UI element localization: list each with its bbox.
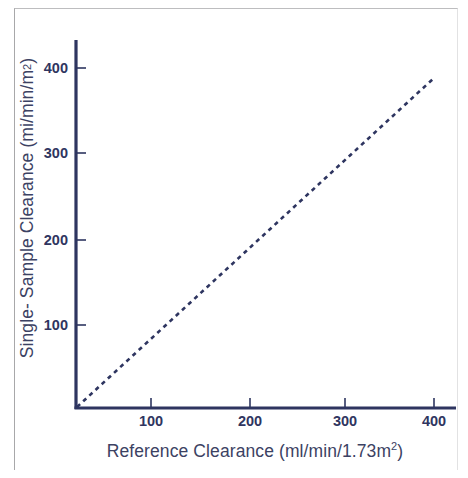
x-tick-label-200: 200 xyxy=(220,413,280,429)
x-tick-label-300: 300 xyxy=(315,413,375,429)
x-axis-title-text: Reference Clearance (ml/min/1.73m xyxy=(107,441,391,461)
x-axis-title-tail: ) xyxy=(397,441,403,461)
y-axis-title-superscript: 2 xyxy=(21,64,33,70)
y-axis-title-text: Single- Sample Clearance (mi/min/m xyxy=(17,70,38,358)
y-axis-title-tail: ) xyxy=(17,58,38,64)
x-axis-title: Reference Clearance (ml/min/1.73m2) xyxy=(55,440,455,462)
identity-line-series xyxy=(77,78,434,407)
x-tick-label-400: 400 xyxy=(404,413,464,429)
figure-container: 400 300 200 100 100 200 300 400 Single- … xyxy=(0,0,468,478)
y-axis-title: Single- Sample Clearance (mi/min/m2 ) xyxy=(12,8,42,408)
plot-area xyxy=(0,0,468,478)
x-tick-label-100: 100 xyxy=(121,413,181,429)
